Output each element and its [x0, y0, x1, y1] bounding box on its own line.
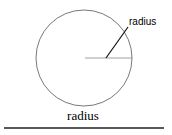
radius-diagram: radius radius: [0, 0, 172, 135]
radius-line: [106, 27, 128, 58]
caption-text: radius: [0, 108, 166, 124]
radius-label: radius: [129, 16, 156, 27]
